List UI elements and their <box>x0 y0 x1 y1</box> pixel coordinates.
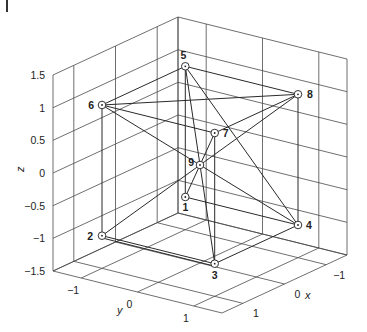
node-center-dot <box>297 93 299 95</box>
y-tick <box>76 278 81 282</box>
node-center-dot <box>214 132 216 134</box>
z-tick-label: 0.5 <box>30 134 45 146</box>
node-label-3: 3 <box>212 269 218 281</box>
node-center-dot <box>214 263 216 265</box>
node-center-dot <box>101 235 103 237</box>
y-tick-label: 1 <box>183 312 189 324</box>
x-tick <box>285 284 291 287</box>
x-tick <box>243 303 249 306</box>
node-center-dot <box>199 164 201 166</box>
graph-edge-3-4 <box>215 225 298 264</box>
graph-edge-5-6 <box>102 66 185 105</box>
node-label-1: 1 <box>182 201 188 213</box>
x-tick-label: 1 <box>253 307 259 319</box>
z-tick-label: −0.5 <box>24 200 45 212</box>
node-label-7: 7 <box>223 127 229 139</box>
z-tick-label: −1 <box>33 232 45 244</box>
3d-graph-plot: −1.5−1−0.500.511.5−101−101 123456789 x y… <box>0 0 367 332</box>
y-tick <box>133 292 138 296</box>
node-label-6: 6 <box>88 99 94 111</box>
graph-nodes: 123456789 <box>87 49 313 280</box>
z-axis-label: z <box>14 166 26 173</box>
z-tick-label: −1.5 <box>24 265 45 277</box>
x-tick-label: 0 <box>295 288 301 300</box>
z-tick-label: 0 <box>39 167 45 179</box>
node-center-dot <box>184 65 186 67</box>
node-label-5: 5 <box>180 49 186 61</box>
node-center-dot <box>101 104 103 106</box>
y-tick-label: −1 <box>67 284 79 296</box>
graph-edge-2-3 <box>102 236 215 264</box>
x-axis-label: x <box>304 289 311 301</box>
node-label-4: 4 <box>306 219 312 231</box>
z-tick-label: 1 <box>39 102 45 114</box>
node-label-2: 2 <box>87 230 93 242</box>
node-label-8: 8 <box>307 88 313 100</box>
graph-edge-6-7 <box>102 105 215 133</box>
z-tick-label: 1.5 <box>30 69 45 81</box>
node-center-dot <box>297 224 299 226</box>
node-label-9: 9 <box>188 156 194 168</box>
x-tick <box>326 265 332 268</box>
node-center-dot <box>184 196 186 198</box>
y-axis-label: y <box>116 304 124 316</box>
y-tick-label: 0 <box>127 298 133 310</box>
y-tick <box>189 306 194 310</box>
graph-edge-6-8 <box>102 94 298 105</box>
x-tick-label: −1 <box>333 269 345 281</box>
